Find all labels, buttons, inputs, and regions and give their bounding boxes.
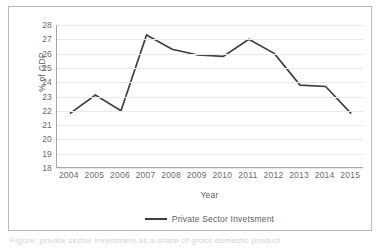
y-tick-label-19: 19 [32,149,52,158]
y-tick-label-24: 24 [32,78,52,87]
x-axis-tick-labels: 2004200520062007200820092010201120122013… [56,171,363,185]
chart-figure-frame: % of GDP 2827262524232221201918 20042005… [8,6,372,231]
gridline-18 [57,168,363,169]
gridline-28 [57,25,363,26]
gridline-27 [57,39,363,40]
gridline-26 [57,54,363,55]
chart-legend: Private Sector Invetsment [56,214,363,224]
y-tick-label-26: 26 [32,49,52,58]
gridline-24 [57,82,363,83]
x-tick-label-2015: 2015 [330,171,370,180]
gridline-25 [57,68,363,69]
legend-label-private-sector-investment: Private Sector Invetsment [172,214,274,224]
plot-area [56,25,363,168]
y-axis-tick-labels: 2827262524232221201918 [28,25,52,168]
y-tick-label-20: 20 [32,135,52,144]
figure-caption: Figure: private sector investment as a s… [10,236,374,245]
gridline-21 [57,125,363,126]
y-tick-label-21: 21 [32,121,52,130]
gridline-23 [57,97,363,98]
y-tick-label-27: 27 [32,35,52,44]
gridline-19 [57,154,363,155]
legend-line-swatch [145,218,167,220]
gridline-22 [57,111,363,112]
x-axis-title: Year [56,190,363,200]
y-tick-label-28: 28 [32,21,52,30]
y-tick-label-25: 25 [32,64,52,73]
gridline-20 [57,139,363,140]
y-tick-label-22: 22 [32,107,52,116]
y-tick-label-23: 23 [32,92,52,101]
